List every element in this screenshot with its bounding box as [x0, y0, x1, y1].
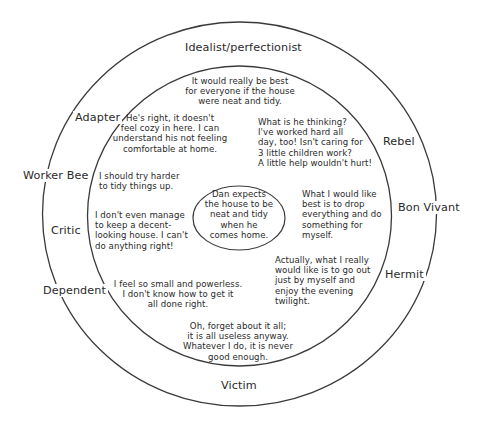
thought-adapter: He's right, it doesn't feel cozy in here… — [106, 113, 234, 154]
role-hermit: Hermit — [383, 268, 426, 281]
role-victim: Victim — [221, 379, 257, 392]
thought-rebel: What is he thinking? I've worked hard al… — [258, 117, 372, 168]
thought-idealist: It would really be best for everyone if … — [179, 76, 301, 107]
inner-roles-diagram: Idealist/perfectionist Adapter Rebel Wor… — [0, 0, 479, 424]
thought-critic: I don't even manage to keep a decent- lo… — [95, 210, 188, 251]
role-critic: Critic — [51, 224, 81, 237]
thought-hermit: Actually, what I really would like is to… — [275, 255, 370, 306]
center-statement: Dan expects the house to be neat and tid… — [193, 189, 285, 240]
role-bon-vivant: Bon Vivant — [396, 201, 462, 214]
role-worker-bee: Worker Bee — [21, 169, 90, 182]
role-idealist-perfectionist: Idealist/perfectionist — [185, 41, 302, 54]
thought-worker-bee: I should try harder to tidy things up. — [99, 171, 180, 191]
thought-bon-vivant: What I would like best is to drop everyt… — [302, 189, 382, 240]
role-rebel: Rebel — [383, 135, 415, 148]
thought-dependent: I feel so small and powerless. I don't k… — [108, 279, 248, 310]
role-dependent: Dependent — [41, 284, 108, 297]
thought-victim: Oh, forget about it all; it is all usele… — [174, 321, 302, 362]
